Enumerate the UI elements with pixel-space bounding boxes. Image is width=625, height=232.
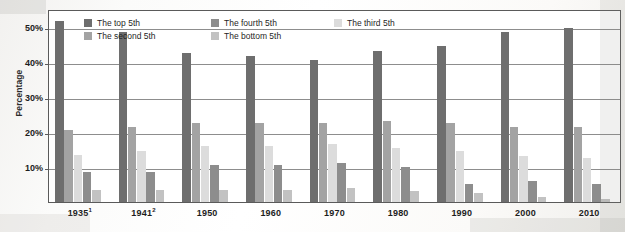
bar [446, 123, 455, 202]
bar [373, 51, 382, 202]
bar [519, 156, 528, 202]
bar [128, 127, 137, 202]
bar [474, 193, 483, 202]
bar [210, 165, 219, 202]
bar [528, 181, 537, 202]
legend-label: The top 5th [97, 18, 140, 28]
bar [146, 172, 155, 202]
bar [64, 130, 73, 202]
legend-item: The second 5th [84, 30, 156, 41]
bar [564, 28, 573, 202]
bar [92, 190, 101, 202]
bar [347, 188, 356, 202]
y-axis-tick-label: 20% [3, 128, 43, 138]
bar [119, 32, 128, 202]
x-label-footnote-marker: 1 [88, 207, 92, 213]
bar [219, 190, 228, 202]
x-axis-tick-label: 1950 [175, 208, 239, 218]
chart-legend: The top 5thThe second 5thThe fourth 5thT… [84, 17, 544, 43]
legend-label: The second 5th [97, 31, 156, 41]
bar [192, 123, 201, 202]
bar-group [558, 11, 622, 202]
legend-label: The third 5th [347, 18, 395, 28]
bar [83, 172, 92, 202]
y-axis-tick-label: 50% [3, 23, 43, 33]
bar [283, 190, 292, 202]
bar [337, 163, 346, 202]
x-axis-tick-label: 19351 [48, 208, 112, 218]
x-axis-tick-label: 1980 [366, 208, 430, 218]
legend-label: The fourth 5th [224, 18, 277, 28]
x-axis-tick-label: 19412 [112, 208, 176, 218]
bar [410, 191, 419, 202]
legend-item: The third 5th [334, 17, 395, 28]
bar [601, 199, 610, 203]
legend-item: The fourth 5th [211, 17, 277, 28]
grouped-bar-chart: Percentage 10%20%30%40%50% 1935119412195… [0, 0, 625, 232]
bar [456, 151, 465, 202]
legend-label: The bottom 5th [224, 31, 281, 41]
legend-color-swatch [84, 19, 92, 27]
x-label-footnote-marker: 2 [152, 207, 156, 213]
legend-color-swatch [211, 32, 219, 40]
bar [501, 32, 510, 202]
bar [583, 158, 592, 202]
bar [574, 127, 583, 202]
bar [265, 146, 274, 202]
bar [437, 46, 446, 202]
bar [310, 60, 319, 202]
bar [319, 123, 328, 202]
y-axis-tick-label: 40% [3, 58, 43, 68]
x-axis-tick-label: 2000 [494, 208, 558, 218]
bar [465, 184, 474, 202]
bar [383, 121, 392, 202]
bar [246, 56, 255, 202]
bar [392, 148, 401, 202]
legend-color-swatch [334, 19, 342, 27]
legend-item: The bottom 5th [211, 30, 281, 41]
y-axis-tick-label: 30% [3, 93, 43, 103]
x-axis-tick-label: 2010 [557, 208, 621, 218]
bar [137, 151, 146, 202]
legend-item: The top 5th [84, 17, 140, 28]
y-axis-tick-label: 10% [3, 163, 43, 173]
x-axis-tick-label: 1990 [430, 208, 494, 218]
bar [74, 155, 83, 202]
bar [255, 123, 264, 202]
bar [592, 184, 601, 202]
bar [510, 127, 519, 202]
bar [401, 167, 410, 202]
legend-color-swatch [211, 19, 219, 27]
bar [201, 146, 210, 202]
bar [182, 53, 191, 202]
bar [538, 197, 547, 202]
x-axis-tick-label: 1960 [239, 208, 303, 218]
bar [328, 144, 337, 202]
legend-color-swatch [84, 32, 92, 40]
bar [156, 190, 165, 202]
bar [55, 21, 64, 202]
x-axis-tick-label: 1970 [303, 208, 367, 218]
bar [274, 165, 283, 202]
